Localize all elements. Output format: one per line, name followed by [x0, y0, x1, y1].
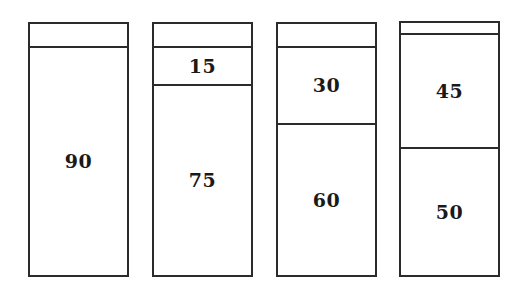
bar-3-segment-3[interactable]: 60 — [278, 125, 375, 275]
bar-column-3[interactable]: 3060 — [276, 22, 377, 277]
stacked-bar-chart: 90157530604550 — [0, 0, 528, 294]
segment-value-label: 45 — [436, 82, 463, 101]
bar-4-segment-2[interactable]: 45 — [401, 35, 498, 149]
segment-value-label: 90 — [65, 152, 92, 171]
bar-4-segment-3[interactable]: 50 — [401, 149, 498, 275]
bar-2-segment-3[interactable]: 75 — [154, 86, 251, 275]
bar-column-2[interactable]: 1575 — [152, 22, 253, 277]
bar-column-4[interactable]: 4550 — [399, 21, 500, 277]
segment-value-label: 30 — [313, 76, 340, 95]
bar-1-segment-1[interactable] — [30, 24, 127, 48]
bar-1-segment-2[interactable]: 90 — [30, 48, 127, 275]
segment-value-label: 60 — [313, 191, 340, 210]
segment-value-label: 15 — [189, 57, 216, 76]
bar-2-segment-2[interactable]: 15 — [154, 48, 251, 86]
bar-3-segment-2[interactable]: 30 — [278, 48, 375, 125]
bar-column-1[interactable]: 90 — [28, 22, 129, 277]
segment-value-label: 75 — [189, 171, 216, 190]
bar-2-segment-1[interactable] — [154, 24, 251, 48]
bar-3-segment-1[interactable] — [278, 24, 375, 48]
bar-4-segment-1[interactable] — [401, 23, 498, 35]
segment-value-label: 50 — [436, 203, 463, 222]
